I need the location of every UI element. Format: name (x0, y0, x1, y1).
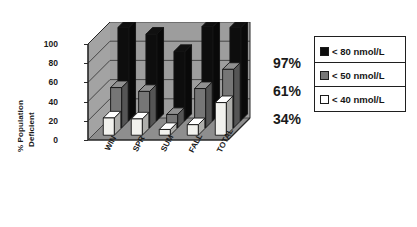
legend-item-label: < 40 nmol/L (332, 94, 385, 105)
legend-box: < 80 nmol/L< 50 nmol/L< 40 nmol/L (314, 36, 406, 112)
legend-separator (315, 86, 405, 87)
chart-figure: % Population Deficient 020406080100 WINS… (0, 0, 417, 227)
value-annotation: 61% (259, 83, 301, 99)
y-axis-title-line2: Deficient (27, 112, 36, 147)
legend-swatch-icon (320, 95, 329, 104)
legend-item: < 50 nmol/L (320, 64, 385, 86)
legend-item-label: < 80 nmol/L (332, 46, 385, 57)
value-annotation: 97% (259, 55, 301, 71)
y-axis-title: % Population Deficient (14, 52, 44, 162)
legend-separator (315, 62, 405, 63)
legend-item: < 80 nmol/L (320, 40, 385, 62)
legend-item: < 40 nmol/L (320, 88, 385, 110)
legend-item-label: < 50 nmol/L (332, 70, 385, 81)
legend-swatch-icon (320, 47, 329, 56)
y-axis-tick-label: 20 (36, 116, 58, 126)
y-axis-tick-label: 40 (36, 97, 58, 107)
legend-swatch-icon (320, 71, 329, 80)
y-axis-tick-label: 100 (36, 39, 58, 49)
y-axis-title-line1: % Population (16, 100, 25, 152)
value-annotation: 34% (259, 111, 301, 127)
y-axis-tick-label: 80 (36, 58, 58, 68)
y-axis-tick-label: 0 (36, 135, 58, 145)
y-axis-tick-label: 60 (36, 77, 58, 87)
